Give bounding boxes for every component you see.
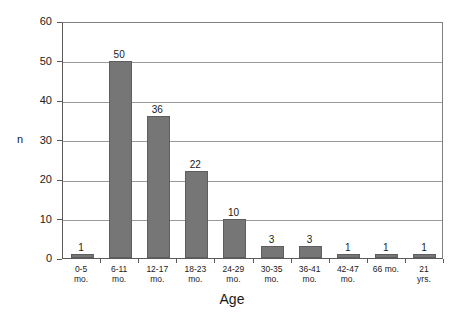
y-tick-label: 40: [26, 95, 52, 106]
bar-value-label: 1: [404, 242, 444, 253]
bar-value-label: 3: [252, 234, 292, 245]
x-tick-mark: [443, 259, 444, 263]
x-category-label-line: yrs.: [399, 274, 449, 284]
x-tick-mark: [100, 259, 101, 263]
x-tick-mark: [176, 259, 177, 263]
x-category-label-line: 21: [399, 264, 449, 274]
bar-value-label: 1: [366, 242, 406, 253]
bar: [261, 246, 284, 258]
y-tick-label: 50: [26, 56, 52, 67]
bar-value-label: 50: [99, 49, 139, 60]
bar: [223, 219, 246, 259]
bar: [337, 254, 360, 258]
y-tick-label: 30: [26, 135, 52, 146]
y-tick-label: 60: [26, 16, 52, 27]
bar-value-label: 3: [290, 234, 330, 245]
x-axis-title: Age: [0, 291, 464, 307]
bar-value-label: 36: [137, 104, 177, 115]
bar: [147, 116, 170, 258]
x-tick-mark: [291, 259, 292, 263]
x-tick-mark: [367, 259, 368, 263]
bar: [375, 254, 398, 258]
bar: [71, 254, 94, 258]
bar: [413, 254, 436, 258]
y-tick-label: 20: [26, 174, 52, 185]
bar: [109, 61, 132, 259]
x-tick-mark: [138, 259, 139, 263]
x-category-label-line: mo.: [323, 274, 373, 284]
x-tick-mark: [214, 259, 215, 263]
bar-value-label: 22: [175, 159, 215, 170]
x-tick-mark: [329, 259, 330, 263]
x-tick-mark: [405, 259, 406, 263]
bar-value-label: 10: [213, 207, 253, 218]
bar: [299, 246, 322, 258]
y-tick-label: 10: [26, 214, 52, 225]
bar-chart: n 0102030405060 0-5mo.6-11mo.12-17mo.18-…: [0, 0, 464, 321]
bar-value-label: 1: [61, 242, 101, 253]
x-category-label: 21yrs.: [399, 264, 449, 284]
x-tick-mark: [253, 259, 254, 263]
bar: [185, 171, 208, 258]
y-tick-label: 0: [26, 253, 52, 264]
bar-value-label: 1: [328, 242, 368, 253]
